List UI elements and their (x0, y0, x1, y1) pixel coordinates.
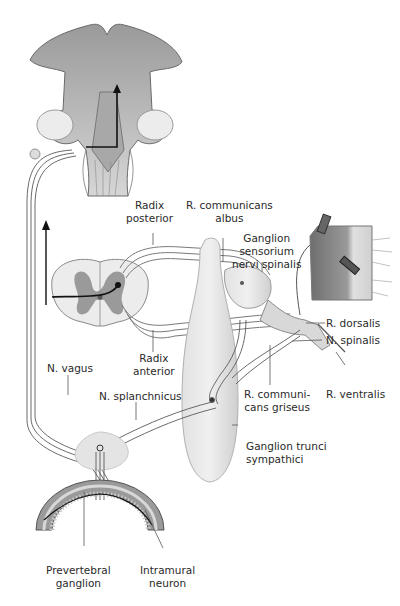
label-prevertebral-ganglion: Prevertebral ganglion (46, 564, 111, 590)
muscle-skin-block (310, 214, 392, 300)
brainstem (30, 24, 182, 196)
label-r-ventralis: R. ventralis (326, 388, 385, 401)
label-n-vagus: N. vagus (47, 362, 93, 375)
label-line: anterior (133, 365, 175, 378)
label-r-dorsalis: R. dorsalis (326, 317, 380, 330)
label-line: Ganglion trunci (246, 440, 327, 453)
label-intramural-neuron: Intramural neuron (140, 564, 195, 590)
label-n-splanchnicus: N. splanchnicus (99, 390, 182, 403)
label-line: Radix (133, 352, 175, 365)
label-line: sensorium (232, 245, 301, 258)
label-line: R. communi- (244, 388, 310, 401)
label-line: Ganglion (232, 232, 301, 245)
label-line: nervi spinalis (232, 258, 301, 271)
ganglion-neuron (240, 281, 244, 285)
ganglion-sensorium-nervi-spinalis (224, 266, 271, 308)
label-ganglion-trunci-sympathici: Ganglion trunci sympathici (246, 440, 327, 466)
label-line: Radix (126, 199, 173, 212)
label-line: albus (186, 212, 273, 225)
label-ganglion-sensorium: Ganglion sensorium nervi spinalis (232, 232, 301, 271)
label-line: Prevertebral (46, 564, 111, 577)
label-r-communicans-griseus: R. communi- cans griseus (244, 388, 310, 414)
label-line: posterior (126, 212, 173, 225)
anatomy-diagram: Radix posterior R. communicans albus Gan… (0, 0, 400, 606)
label-line: neuron (140, 577, 195, 590)
diagram-artwork (0, 0, 400, 606)
label-line: ganglion (46, 577, 111, 590)
gut-wall-section (36, 480, 164, 530)
label-radix-anterior: Radix anterior (133, 352, 175, 378)
arrow-head-icon (42, 220, 50, 230)
label-line: Intramural (140, 564, 195, 577)
label-n-spinalis: N. spinalis (326, 334, 380, 347)
label-radix-posterior: Radix posterior (126, 199, 173, 225)
label-line: cans griseus (244, 401, 310, 414)
label-line: R. communicans (186, 199, 273, 212)
label-line: sympathici (246, 453, 327, 466)
label-r-communicans-albus: R. communicans albus (186, 199, 273, 225)
